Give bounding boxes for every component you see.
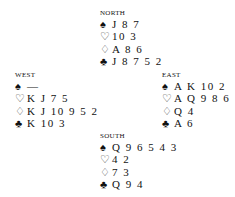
west-clubs-cards: K 10 3 — [27, 117, 66, 129]
west-spades-cards: — — [27, 80, 40, 92]
club-icon: ♣ — [100, 55, 112, 67]
south-hearts: ♡4 2 — [100, 153, 178, 165]
west-diamonds-cards: K J 10 9 5 2 — [27, 105, 98, 117]
east-hearts: ♡A Q 9 8 6 — [162, 92, 230, 104]
north-diamonds-cards: A 8 6 — [112, 43, 143, 55]
heart-icon: ♡ — [100, 30, 112, 42]
club-icon: ♣ — [100, 178, 112, 190]
south-diamonds: ♢7 3 — [100, 166, 178, 178]
east-diamonds: ♢Q 4 — [162, 105, 230, 117]
north-hand: NORTH ♠J 8 7 ♡10 3 ♢A 8 6 ♣J 8 7 5 2 — [100, 8, 163, 68]
spade-icon: ♠ — [15, 80, 27, 92]
north-label: NORTH — [100, 8, 163, 18]
east-diamonds-cards: Q 4 — [174, 105, 195, 117]
diamond-icon: ♢ — [100, 166, 112, 178]
heart-icon: ♡ — [100, 153, 112, 165]
north-diamonds: ♢A 8 6 — [100, 43, 163, 55]
south-spades: ♠Q 9 6 5 4 3 — [100, 141, 178, 153]
south-clubs-cards: Q 9 4 — [112, 178, 144, 190]
south-hearts-cards: 4 2 — [112, 153, 130, 165]
diamond-icon: ♢ — [162, 105, 174, 117]
south-hand: SOUTH ♠Q 9 6 5 4 3 ♡4 2 ♢7 3 ♣Q 9 4 — [100, 131, 178, 191]
north-clubs: ♣J 8 7 5 2 — [100, 55, 163, 67]
north-spades: ♠J 8 7 — [100, 18, 163, 30]
north-hearts-cards: 10 3 — [112, 30, 137, 42]
east-spades-cards: A K 10 2 — [174, 80, 226, 92]
diamond-icon: ♢ — [15, 105, 27, 117]
east-clubs-cards: A 6 — [174, 117, 194, 129]
club-icon: ♣ — [162, 117, 174, 129]
west-diamonds: ♢K J 10 9 5 2 — [15, 105, 98, 117]
club-icon: ♣ — [15, 117, 27, 129]
west-label: WEST — [15, 70, 98, 80]
north-hearts: ♡10 3 — [100, 30, 163, 42]
west-hearts-cards: K J 7 5 — [27, 92, 69, 104]
east-hand: EAST ♠A K 10 2 ♡A Q 9 8 6 ♢Q 4 ♣A 6 — [162, 70, 230, 130]
south-clubs: ♣Q 9 4 — [100, 178, 178, 190]
east-label: EAST — [162, 70, 230, 80]
west-hearts: ♡K J 7 5 — [15, 92, 98, 104]
west-clubs: ♣K 10 3 — [15, 117, 98, 129]
east-spades: ♠A K 10 2 — [162, 80, 230, 92]
heart-icon: ♡ — [162, 92, 174, 104]
west-hand: WEST ♠— ♡K J 7 5 ♢K J 10 9 5 2 ♣K 10 3 — [15, 70, 98, 130]
heart-icon: ♡ — [15, 92, 27, 104]
diamond-icon: ♢ — [100, 43, 112, 55]
north-clubs-cards: J 8 7 5 2 — [112, 55, 163, 67]
spade-icon: ♠ — [100, 18, 112, 30]
west-spades: ♠— — [15, 80, 98, 92]
spade-icon: ♠ — [100, 141, 112, 153]
south-label: SOUTH — [100, 131, 178, 141]
south-diamonds-cards: 7 3 — [112, 166, 130, 178]
east-clubs: ♣A 6 — [162, 117, 230, 129]
south-spades-cards: Q 9 6 5 4 3 — [112, 141, 178, 153]
spade-icon: ♠ — [162, 80, 174, 92]
east-hearts-cards: A Q 9 8 6 — [174, 92, 230, 104]
north-spades-cards: J 8 7 — [112, 18, 140, 30]
